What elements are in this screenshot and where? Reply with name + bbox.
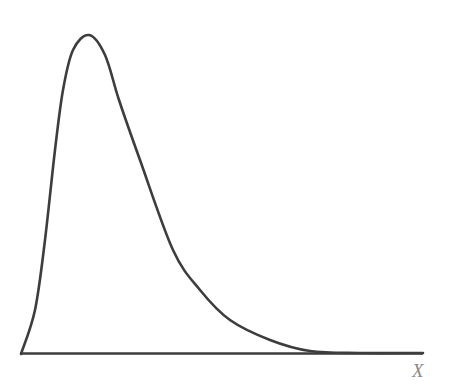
- density-curve: [21, 35, 423, 354]
- x-axis-label: X: [412, 360, 424, 382]
- density-chart: [0, 0, 449, 387]
